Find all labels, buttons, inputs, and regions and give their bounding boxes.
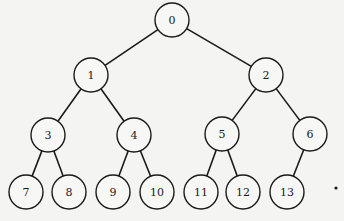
tree-node-1: 1 [74,58,108,92]
tree-node-2: 2 [249,58,283,92]
tree-node-11: 11 [184,175,218,209]
tree-edge-1-3 [58,89,81,121]
node-label: 4 [131,129,138,142]
tree-edge-2-5 [232,89,256,121]
tree-edge-0-1 [105,30,158,66]
node-label: 7 [23,186,30,199]
tree-node-0: 0 [155,3,189,37]
tree-edge-3-7 [32,151,42,176]
node-label: 1 [88,69,95,82]
tree-node-10: 10 [140,175,174,209]
node-label: 3 [45,129,52,142]
tree-node-4: 4 [117,118,151,152]
tree-node-6: 6 [293,117,327,151]
node-label: 13 [280,186,294,199]
node-label: 2 [263,69,270,82]
tree-node-9: 9 [96,175,130,209]
tree-edge-4-9 [119,151,128,176]
tree-node-5: 5 [205,117,239,151]
tree-node-13: 13 [270,175,304,209]
node-label: 8 [66,186,73,199]
tree-edge-5-11 [207,150,216,176]
tree-edge-0-2 [187,29,252,67]
tree-edge-1-4 [101,89,124,121]
tree-node-3: 3 [31,118,65,152]
tree-node-12: 12 [226,175,260,209]
node-label: 11 [194,186,208,199]
tree-edge-2-6 [276,89,300,121]
tree-node-7: 7 [9,175,43,209]
node-label: 9 [110,186,117,199]
tree-edge-4-10 [140,151,150,176]
stray-dot-mark [334,186,337,189]
node-label: 12 [236,186,250,199]
node-label: 5 [219,128,226,141]
node-label: 6 [307,128,314,141]
tree-edges [32,29,304,177]
tree-edge-6-13 [293,150,303,176]
binary-tree-diagram: 012345678910111213 [0,0,344,221]
tree-edge-5-12 [228,150,237,176]
node-label: 0 [169,14,176,27]
tree-node-8: 8 [52,175,86,209]
node-label: 10 [150,186,164,199]
tree-nodes: 012345678910111213 [9,3,327,209]
tree-edge-3-8 [54,151,63,176]
